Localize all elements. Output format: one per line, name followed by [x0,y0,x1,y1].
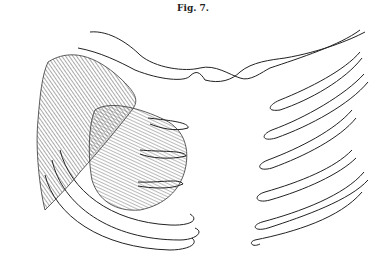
ribs-right [251,52,368,245]
anatomical-illustration [0,0,386,258]
clavicle-and-sternum-outline [78,30,365,82]
